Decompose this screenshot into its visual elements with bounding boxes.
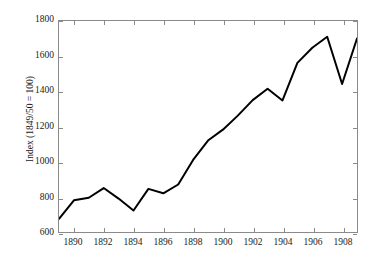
x-axis-tick-label: 1902 xyxy=(244,238,263,248)
y-axis-tick-label: 1400 xyxy=(35,86,54,96)
chart-figure: Index (1849/50 = 100) 600800100012001400… xyxy=(0,0,376,269)
x-axis-tick-mark xyxy=(194,228,195,232)
x-axis-tick-label: 1892 xyxy=(94,238,113,248)
x-axis-tick-mark xyxy=(134,228,135,232)
x-axis-tick-mark xyxy=(284,21,285,25)
x-axis-tick-mark xyxy=(254,228,255,232)
y-axis-tick-mark xyxy=(59,199,63,200)
x-axis-tick-label: 1900 xyxy=(214,238,233,248)
x-axis-tick-mark xyxy=(194,21,195,25)
y-axis-tick-mark xyxy=(59,57,63,58)
y-axis-tick-mark xyxy=(353,163,357,164)
y-axis-tick-mark xyxy=(59,92,63,93)
x-axis-tick-mark xyxy=(104,21,105,25)
y-axis-tick-label: 800 xyxy=(40,193,54,203)
x-axis-tick-label: 1890 xyxy=(64,238,83,248)
x-axis-tick-mark xyxy=(314,21,315,25)
x-axis-tick-mark xyxy=(104,228,105,232)
y-axis-tick-mark xyxy=(353,92,357,93)
y-axis-tick-mark xyxy=(353,199,357,200)
x-axis-tick-label: 1896 xyxy=(154,238,173,248)
y-axis-tick-label: 1000 xyxy=(35,157,54,167)
y-axis-tick-mark xyxy=(59,163,63,164)
y-axis-tick-mark xyxy=(59,234,63,235)
y-axis-tick-mark xyxy=(353,57,357,58)
x-axis-tick-mark xyxy=(344,228,345,232)
x-axis-tick-mark xyxy=(74,21,75,25)
y-axis-tick-mark xyxy=(59,21,63,22)
x-axis-tick-mark xyxy=(254,21,255,25)
data-series-line xyxy=(59,37,357,219)
x-axis-tick-labels: 1890189218941896189819001902190419061908 xyxy=(58,238,358,252)
x-axis-tick-mark xyxy=(224,228,225,232)
x-axis-tick-mark xyxy=(164,21,165,25)
x-axis-tick-mark xyxy=(134,21,135,25)
x-axis-tick-mark xyxy=(344,21,345,25)
y-axis-tick-mark xyxy=(59,128,63,129)
plot-area xyxy=(58,20,358,233)
x-axis-tick-label: 1904 xyxy=(274,238,293,248)
x-axis-tick-mark xyxy=(284,228,285,232)
y-axis-tick-mark xyxy=(353,128,357,129)
y-axis-tick-labels: 60080010001200140016001800 xyxy=(10,20,54,233)
x-axis-tick-mark xyxy=(164,228,165,232)
x-axis-tick-mark xyxy=(314,228,315,232)
y-axis-tick-label: 1200 xyxy=(35,122,54,132)
y-axis-tick-label: 1600 xyxy=(35,51,54,61)
x-axis-tick-label: 1906 xyxy=(304,238,323,248)
x-axis-tick-mark xyxy=(224,21,225,25)
y-axis-tick-mark xyxy=(353,21,357,22)
y-axis-tick-mark xyxy=(353,234,357,235)
data-line-svg xyxy=(59,21,357,232)
x-axis-tick-mark xyxy=(74,228,75,232)
x-axis-tick-label: 1908 xyxy=(334,238,353,248)
y-axis-tick-label: 1800 xyxy=(35,15,54,25)
y-axis-tick-label: 600 xyxy=(40,228,54,238)
x-axis-tick-label: 1894 xyxy=(124,238,143,248)
x-axis-tick-label: 1898 xyxy=(184,238,203,248)
